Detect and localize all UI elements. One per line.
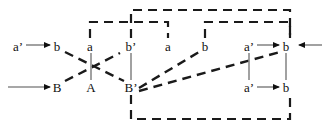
node-label-aprime-input: a’ bbox=[13, 40, 23, 53]
bracket-bottom bbox=[131, 95, 290, 119]
bracket-inner-left bbox=[90, 22, 168, 38]
diagram-graphics bbox=[0, 0, 327, 130]
node-label-A-mid: A bbox=[86, 81, 95, 94]
node-label-aprime-bottom: a’ bbox=[244, 81, 254, 94]
node-label-aprime-top: a’ bbox=[244, 40, 254, 53]
bracket-outer-top bbox=[131, 10, 290, 38]
node-label-b-center: b bbox=[202, 40, 209, 53]
node-label-Bprime-bottom: B’ bbox=[125, 81, 138, 94]
bracket-inner-left-path bbox=[90, 22, 168, 38]
edge-Bprime-to-b-right bbox=[139, 52, 280, 91]
node-label-a-mid-right: a bbox=[165, 40, 171, 53]
node-label-a-mid-left: a bbox=[87, 40, 93, 53]
connector-group bbox=[91, 53, 286, 80]
bracket-inner-right-path bbox=[205, 22, 290, 38]
node-label-b-left: b bbox=[54, 40, 61, 53]
node-label-b-bottom: b bbox=[283, 81, 290, 94]
node-label-bprime-top: b’ bbox=[126, 40, 137, 53]
bracket-bottom-path bbox=[131, 95, 290, 119]
diagram-canvas: bab’aba’bBAB’a’ba’ bbox=[0, 0, 327, 130]
node-label-B-left: B bbox=[53, 81, 62, 94]
edge-B-to-a bbox=[65, 53, 120, 81]
bracket-group bbox=[90, 10, 290, 119]
bracket-outer-top-path bbox=[131, 10, 290, 38]
bracket-inner-right bbox=[205, 22, 290, 38]
node-label-b-right: b bbox=[283, 40, 290, 53]
